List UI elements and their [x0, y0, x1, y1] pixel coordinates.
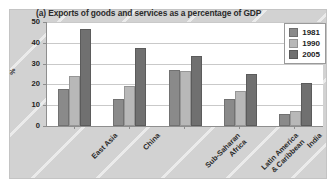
- bar-group: [169, 22, 202, 126]
- plot-area: [46, 22, 323, 127]
- bar: [113, 99, 124, 126]
- bar: [169, 70, 180, 126]
- bar: [58, 89, 69, 126]
- x-axis-tick-mark: [239, 126, 240, 129]
- bar: [279, 114, 290, 126]
- bar: [235, 91, 246, 126]
- y-axis-tick-label: 50: [16, 17, 40, 26]
- bar: [69, 76, 80, 126]
- y-axis-tick-mark: [43, 84, 46, 85]
- y-axis-tick-label: 0: [16, 121, 40, 130]
- x-axis-tick-mark: [294, 126, 295, 129]
- x-axis-tick-mark: [184, 126, 185, 129]
- y-axis-tick-mark: [43, 64, 46, 65]
- y-axis-title: %: [9, 65, 16, 79]
- legend-label: 1990: [302, 39, 320, 48]
- bar: [224, 99, 235, 126]
- legend-item: 2005: [289, 49, 320, 60]
- bar: [246, 74, 257, 126]
- plot-inner: [47, 22, 323, 126]
- legend-label: 1981: [302, 28, 320, 37]
- bar: [301, 83, 312, 126]
- legend-swatch-icon: [289, 50, 298, 59]
- bar: [191, 56, 202, 126]
- y-axis-tick-mark: [43, 105, 46, 106]
- x-axis-tick-mark: [74, 126, 75, 129]
- chart-legend: 198119902005: [284, 23, 326, 64]
- chart-title: (a) Exports of goods and services as a p…: [36, 8, 326, 18]
- legend-label: 2005: [302, 50, 320, 59]
- legend-swatch-icon: [289, 39, 298, 48]
- y-axis-tick-label: 30: [16, 59, 40, 68]
- y-axis-tick-mark: [43, 126, 46, 127]
- bar: [124, 86, 135, 126]
- chart-figure: (a) Exports of goods and services as a p…: [0, 0, 332, 186]
- y-axis-tick-label: 20: [16, 79, 40, 88]
- bar: [180, 71, 191, 126]
- bar-group: [58, 22, 91, 126]
- bar: [290, 111, 301, 126]
- bar-group: [224, 22, 257, 126]
- bar: [135, 48, 146, 126]
- bar: [80, 29, 91, 126]
- y-axis-tick-label: 40: [16, 38, 40, 47]
- legend-item: 1981: [289, 27, 320, 38]
- y-axis-tick-mark: [43, 43, 46, 44]
- y-axis-tick-label: 10: [16, 100, 40, 109]
- x-axis-tick-mark: [129, 126, 130, 129]
- legend-item: 1990: [289, 38, 320, 49]
- bar-group: [113, 22, 146, 126]
- y-axis-tick-mark: [43, 22, 46, 23]
- legend-swatch-icon: [289, 28, 298, 37]
